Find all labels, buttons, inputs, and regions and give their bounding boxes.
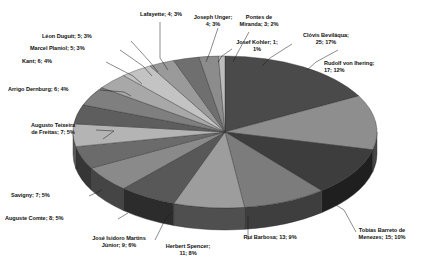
slice-label-rui-barbosa: Rui Barbosa; 13; 9% <box>230 234 310 241</box>
slice-label-herbert-spencer: Herbert Spencer; 11; 8% <box>150 243 226 258</box>
slice-label-rudolf-von-ihering: Rudolf von Ihering; 17; 12% <box>324 60 424 75</box>
pie-chart: Lafayette; 4; 3% Joseph Unger; 4; 3% Pon… <box>0 0 431 271</box>
pie-slices <box>73 56 377 208</box>
slice-label-auguste-comte: Auguste Comte; 8; 5% <box>5 215 89 222</box>
slice-label-kant: Kant; 6; 4% <box>22 58 98 65</box>
slice-label-arrigo-dernburg: Arrigo Dernburg; 6; 4% <box>8 86 98 93</box>
slice-label-jose-isidoro-martins-junior: José Isidoro Martins Júnior; 9; 6% <box>78 235 160 250</box>
slice-label-marcel-planiol: Marcel Planiol; 5; 3% <box>30 45 118 52</box>
slice-label-leon-duguit: Léon Duguit; 5; 3% <box>42 33 128 40</box>
slice-label-savigny: Savigny; 7; 5% <box>11 192 87 199</box>
slice-label-augusto-teixeira-de-freitas: Augusto Teixeira de Freitas; 7; 5% <box>12 122 94 137</box>
slice-label-josef-kohler: Josef Kohler; 1; 1% <box>226 39 288 54</box>
slice-label-clovis-bevilaqua: Clóvis Beviláqua; 25; 17% <box>290 32 362 47</box>
slice-label-pontes-de-miranda: Pontes de Miranda; 3; 2% <box>228 14 290 29</box>
slice-label-tobias-barreto-de-menezes: Tobias Barreto de Menezes; 15; 10% <box>336 227 428 242</box>
